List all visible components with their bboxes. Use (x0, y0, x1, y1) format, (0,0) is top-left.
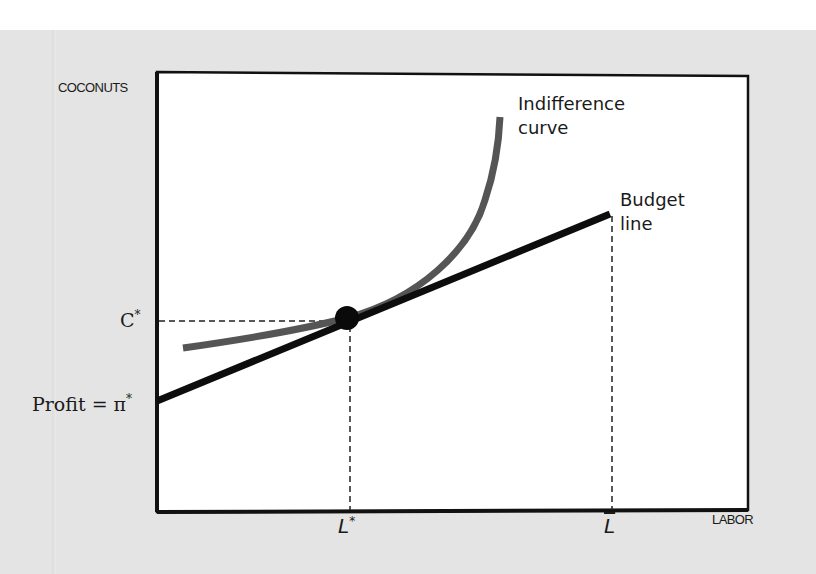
y-axis-label: COCONUTS (58, 80, 128, 95)
curve-label-line2: curve (518, 116, 625, 140)
c-star-label: C* (120, 308, 141, 331)
l-star-label: L* (338, 514, 355, 538)
profit-label: Profit = π* (32, 392, 132, 415)
budget-label-line1: Budget (620, 188, 685, 212)
tangency-point (335, 306, 359, 330)
plot-area (157, 72, 748, 512)
budget-label-line2: line (620, 212, 685, 236)
c-star-symbol: C (120, 309, 135, 331)
indifference-curve-label: Indifference curve (518, 92, 625, 140)
c-star-superscript: * (135, 308, 141, 322)
x-axis (157, 510, 748, 512)
budget-line-label: Budget line (620, 188, 685, 236)
profit-superscript: * (126, 392, 132, 406)
x-axis-label: LABOR (712, 512, 753, 527)
profit-equation: Profit = π (32, 393, 126, 415)
l-star-symbol: L (338, 514, 349, 538)
l-bar-label: L (604, 514, 615, 538)
l-star-superscript: * (349, 514, 355, 528)
curve-label-line1: Indifference (518, 92, 625, 116)
l-bar-symbol: L (604, 514, 615, 538)
